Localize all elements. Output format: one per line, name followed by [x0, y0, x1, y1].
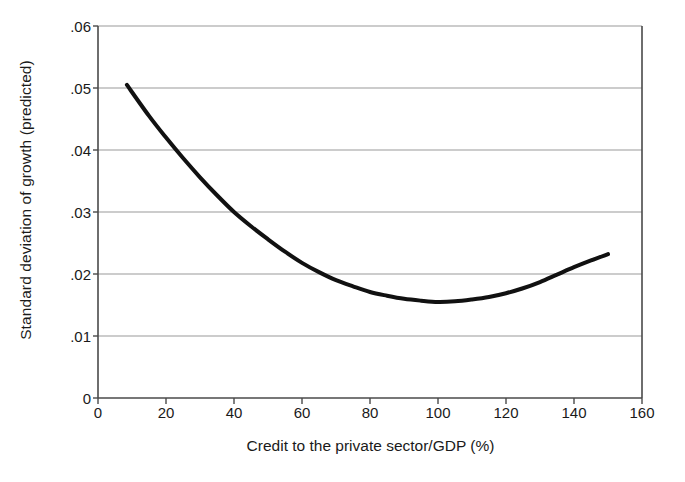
x-tick-label: 40 [226, 404, 243, 421]
x-axis-title: Credit to the private sector/GDP (%) [98, 437, 643, 455]
x-tick-label: 160 [629, 404, 654, 421]
x-tick-label: 120 [493, 404, 518, 421]
y-tick-label: .03 [70, 204, 91, 221]
y-tick-label: .04 [70, 142, 91, 159]
x-tick-label: 140 [561, 404, 586, 421]
y-tick-label: .06 [70, 18, 91, 35]
x-axis-tick-labels: 0 20 40 60 80 100 120 140 160 [0, 404, 685, 430]
chart-figure: Standard deviation of growth (predicted)… [0, 0, 685, 482]
data-series-line [127, 85, 608, 302]
x-tick-label: 80 [362, 404, 379, 421]
y-tick-label: .05 [70, 80, 91, 97]
y-axis-title: Standard deviation of growth (predicted) [6, 0, 46, 400]
y-axis-title-text: Standard deviation of growth (predicted) [17, 60, 35, 340]
y-tick-label: .02 [70, 266, 91, 283]
x-tick-label: 60 [294, 404, 311, 421]
x-tick-label: 100 [425, 404, 450, 421]
y-tick-label: .01 [70, 328, 91, 345]
gridlines-group [98, 26, 642, 336]
x-tick-label: 0 [94, 404, 102, 421]
x-tick-label: 20 [158, 404, 175, 421]
